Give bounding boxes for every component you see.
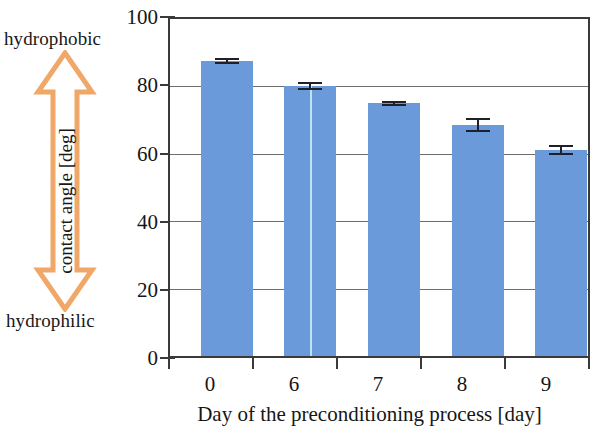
y-tick-label-0: 0 (116, 346, 158, 371)
bar-day-8 (452, 125, 504, 356)
x-tick-label-9: 9 (516, 372, 576, 397)
y-tick-label-20: 20 (116, 278, 158, 303)
hydrophilic-annotation-label: hydrophilic (6, 310, 95, 332)
error-cap-upper-day-6 (298, 82, 322, 84)
y-tick-label-40: 40 (116, 210, 158, 235)
x-tick-mark-right-edge (588, 358, 590, 369)
x-tick-mark-3 (420, 358, 422, 369)
x-tick-label-7: 7 (348, 372, 408, 397)
y-axis-tick-labels: 100 80 60 40 20 0 (110, 0, 158, 439)
error-cap-lower-day-6 (298, 88, 322, 90)
y-tick-label-100: 100 (116, 5, 158, 30)
bar-day-6 (284, 86, 336, 356)
x-tick-mark-left-edge (168, 358, 170, 369)
bar-day-0 (201, 61, 253, 356)
x-tick-label-8: 8 (432, 372, 492, 397)
error-cap-upper-day-9 (549, 145, 573, 147)
error-cap-upper-day-7 (382, 101, 406, 103)
y-axis-title: contact angle [deg] (55, 96, 77, 306)
x-tick-mark-2 (336, 358, 338, 369)
chart-figure: hydrophobic hydrophilic contact angle [d… (0, 0, 599, 439)
error-cap-lower-day-8 (466, 130, 490, 132)
plot-area (168, 17, 590, 358)
x-tick-label-0: 0 (180, 372, 240, 397)
y-tick-label-60: 60 (116, 142, 158, 167)
error-cap-lower-day-9 (549, 153, 573, 155)
bar-day-7 (368, 103, 420, 356)
bar-day-9 (535, 150, 587, 356)
y-tick-label-80: 80 (116, 73, 158, 98)
error-cap-upper-day-8 (466, 118, 490, 120)
error-cap-lower-day-0 (215, 62, 239, 64)
x-tick-mark-1 (252, 358, 254, 369)
hydrophobic-annotation-label: hydrophobic (4, 28, 101, 50)
bar-scan-artifact (310, 86, 312, 356)
x-tick-mark-4 (504, 358, 506, 369)
error-cap-lower-day-7 (382, 104, 406, 106)
x-tick-label-6: 6 (264, 372, 324, 397)
x-axis-title: Day of the preconditioning process [day] (140, 402, 599, 427)
error-cap-upper-day-0 (215, 58, 239, 60)
